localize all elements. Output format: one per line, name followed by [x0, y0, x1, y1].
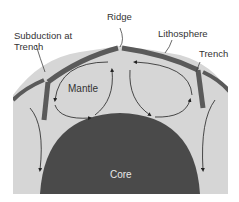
subduction-label: Subduction at Trench [14, 30, 72, 52]
mantle-label: Mantle [68, 83, 98, 94]
ridge-label: Ridge [107, 11, 132, 22]
lithosphere-label: Lithosphere [158, 28, 208, 39]
core-label: Core [110, 169, 132, 180]
trench-label: Trench [199, 48, 228, 59]
